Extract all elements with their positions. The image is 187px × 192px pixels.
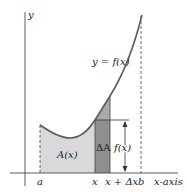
tick-label-b: b — [138, 176, 144, 187]
x-axis-label: x-axis — [154, 176, 183, 187]
tick-label-a: a — [37, 176, 43, 187]
arrow-head-down-icon — [123, 166, 128, 172]
delta-area-label: ΔA — [96, 142, 111, 153]
arrow-head-up-icon — [123, 121, 128, 127]
height-label: f(x) — [113, 142, 131, 153]
curve-label: y = f(x) — [91, 56, 130, 67]
y-axis-label: y — [27, 9, 34, 20]
area-region — [40, 120, 95, 173]
area-diagram: y y = f(x) A(x) ΔA f(x) a x x + Δx b x-a… — [0, 0, 187, 192]
area-label: A(x) — [56, 149, 78, 160]
curve-f — [40, 15, 142, 138]
tick-label-x-dx: x + Δx — [105, 176, 139, 187]
tick-label-x: x — [92, 176, 98, 187]
